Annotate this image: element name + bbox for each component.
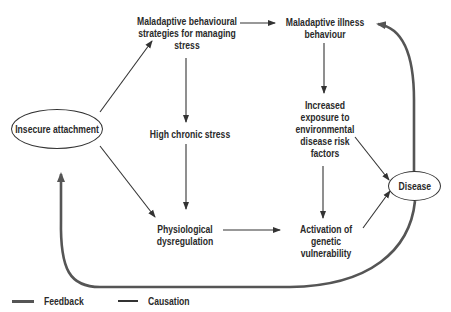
edge-attachment-to-dysregulation [100,146,155,217]
node-activation-genetic[interactable]: Activation of genetic vulnerability [285,223,367,259]
node-maladaptive-strategies[interactable]: Maladaptive behavioural strategies for m… [134,15,241,51]
node-physiological-dysregulation[interactable]: Physiological dysregulation [152,223,218,247]
legend-causation: Causation [118,295,199,307]
node-disease[interactable]: Disease [388,171,441,201]
edge-attachment-to-strategies [100,41,152,112]
node-insecure-attachment-label: Insecure attachment [15,123,99,135]
feedback-disease-to-illness [378,24,414,171]
legend-feedback-line [12,300,34,303]
node-high-chronic-stress[interactable]: High chronic stress [145,128,235,140]
node-maladaptive-illness[interactable]: Maladaptive illness behaviour [280,16,370,40]
legend-causation-line [118,300,138,301]
legend-feedback-label: Feedback [44,295,84,307]
node-increased-exposure[interactable]: Increased exposure to environmental dise… [291,99,360,159]
edge-exposure-to-disease [355,137,389,180]
legend-feedback: Feedback [12,295,92,307]
legend-causation-label: Causation [148,295,190,307]
node-disease-label: Disease [398,180,431,192]
node-insecure-attachment[interactable]: Insecure attachment [11,109,103,149]
edge-activation-to-disease [363,191,390,228]
